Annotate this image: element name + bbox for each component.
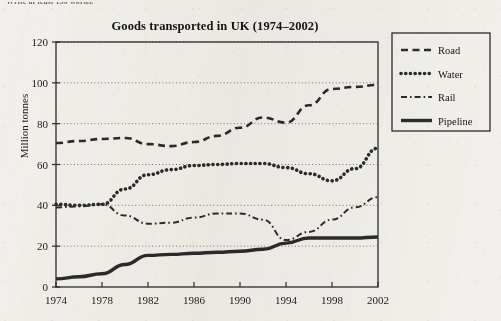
svg-text:1986: 1986 (183, 294, 206, 306)
chart-legend: RoadWaterRailPipeline (392, 33, 490, 131)
series-line-pipeline (56, 237, 378, 279)
legend-label-pipeline: Pipeline (438, 116, 473, 127)
svg-text:1982: 1982 (137, 294, 159, 306)
svg-text:1990: 1990 (229, 294, 252, 306)
data-series (56, 85, 378, 279)
svg-text:20: 20 (37, 240, 49, 252)
svg-text:1998: 1998 (321, 294, 344, 306)
x-axis: 19741978198219861990199419982002 (45, 282, 389, 306)
svg-text:1974: 1974 (45, 294, 68, 306)
svg-text:1978: 1978 (91, 294, 114, 306)
line-chart: 020406080100120 197419781982198619901994… (0, 0, 501, 321)
series-line-water (56, 148, 378, 205)
legend-label-water: Water (438, 69, 463, 80)
series-line-road (56, 85, 378, 146)
svg-text:60: 60 (37, 159, 49, 171)
svg-text:0: 0 (43, 281, 49, 293)
svg-text:80: 80 (37, 118, 49, 130)
svg-text:2002: 2002 (367, 294, 389, 306)
svg-text:100: 100 (32, 77, 49, 89)
legend-label-rail: Rail (438, 92, 456, 103)
grid-lines (57, 42, 377, 246)
svg-text:120: 120 (32, 36, 49, 48)
legend-label-road: Road (438, 45, 461, 56)
svg-text:1994: 1994 (275, 294, 298, 306)
svg-text:40: 40 (37, 199, 49, 211)
